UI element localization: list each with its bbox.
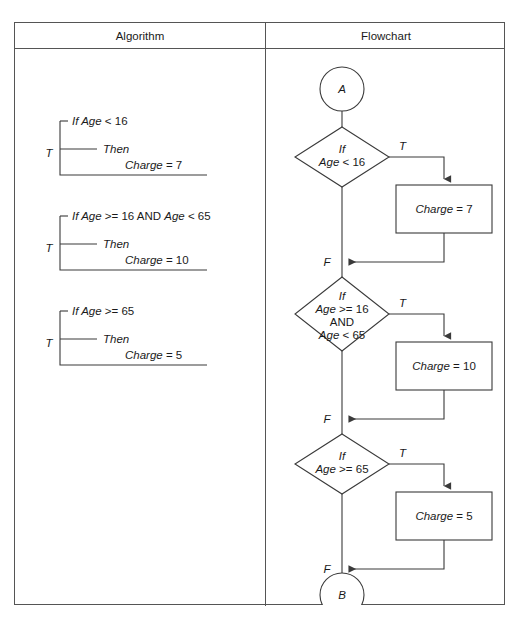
decision-2-false-label: F bbox=[323, 413, 331, 425]
flow-decision-1: If Age < 16 bbox=[295, 127, 389, 187]
flow-decision-3: If Age >= 65 bbox=[295, 434, 389, 494]
flow-edge-d2-true bbox=[389, 314, 444, 336]
algo-block-2-if-text: If Age >= 16 AND Age < 65 bbox=[72, 210, 211, 222]
decision-2-line3: AND bbox=[330, 316, 354, 328]
content-canvas: T If Age < 16 Then Charge = 7 T If Age >… bbox=[15, 49, 506, 605]
decision-1-true-label: T bbox=[399, 140, 407, 152]
algo-bracket-3-label: T bbox=[45, 337, 53, 349]
decision-2-line4: Age < 65 bbox=[318, 329, 365, 341]
process-1-label: Charge = 7 bbox=[415, 203, 472, 215]
flow-process-3: Charge = 5 bbox=[396, 492, 492, 540]
algo-block-1-action-text: Charge = 7 bbox=[125, 159, 182, 171]
flow-edge-d1-true bbox=[389, 157, 444, 179]
algo-block-3-if-text: If Age >= 65 bbox=[72, 305, 134, 317]
algorithm-block-1: T If Age < 16 Then Charge = 7 bbox=[45, 115, 207, 175]
algo-bracket-2-label: T bbox=[45, 242, 53, 254]
algorithm-block-2: T If Age >= 16 AND Age < 65 Then Charge … bbox=[45, 210, 210, 270]
decision-1-line2: Age < 16 bbox=[318, 156, 365, 168]
algorithm-block-3: T If Age >= 65 Then Charge = 5 bbox=[45, 305, 207, 365]
algo-block-1-then-text: Then bbox=[103, 143, 129, 155]
flow-edge-p1-merge bbox=[349, 233, 444, 262]
flow-edge-d3-true bbox=[389, 464, 444, 486]
comparison-table: Algorithm Flowchart T If Age < 16 Then C… bbox=[14, 22, 505, 605]
page-root: Algorithm Flowchart T If Age < 16 Then C… bbox=[0, 0, 519, 623]
decision-1-false-label: F bbox=[323, 256, 331, 268]
flow-decision-2: If Age >= 16 AND Age < 65 bbox=[295, 277, 389, 351]
algo-bracket-1-label: T bbox=[45, 147, 53, 159]
algo-block-2-then-text: Then bbox=[103, 238, 129, 250]
decision-2-true-label: T bbox=[399, 297, 407, 309]
column-header-algorithm: Algorithm bbox=[15, 23, 265, 49]
connector-b-label: B bbox=[338, 589, 346, 601]
flow-edge-p2-merge bbox=[349, 390, 444, 419]
process-2-label: Charge = 10 bbox=[412, 360, 476, 372]
algo-block-3-then-text: Then bbox=[103, 333, 129, 345]
algo-block-1-if-text: If Age < 16 bbox=[72, 115, 128, 127]
decision-3-false-label: F bbox=[323, 563, 331, 575]
flow-end-connector: B bbox=[320, 573, 364, 605]
algo-block-2-action-text: Charge = 10 bbox=[125, 254, 189, 266]
decision-3-line2: Age >= 65 bbox=[314, 463, 368, 475]
flow-edge-p3-merge bbox=[349, 540, 444, 569]
decision-2-line2: Age >= 16 bbox=[314, 303, 368, 315]
process-3-label: Charge = 5 bbox=[415, 510, 472, 522]
connector-a-label: A bbox=[337, 83, 346, 95]
flow-start-connector: A bbox=[320, 67, 364, 111]
table-header-row: Algorithm Flowchart bbox=[15, 23, 504, 49]
algo-block-3-action-text: Charge = 5 bbox=[125, 349, 182, 361]
flow-process-1: Charge = 7 bbox=[396, 185, 492, 233]
decision-3-true-label: T bbox=[399, 447, 407, 459]
column-header-flowchart: Flowchart bbox=[266, 23, 506, 49]
flow-process-2: Charge = 10 bbox=[396, 342, 492, 390]
table-body: T If Age < 16 Then Charge = 7 T If Age >… bbox=[15, 49, 506, 605]
